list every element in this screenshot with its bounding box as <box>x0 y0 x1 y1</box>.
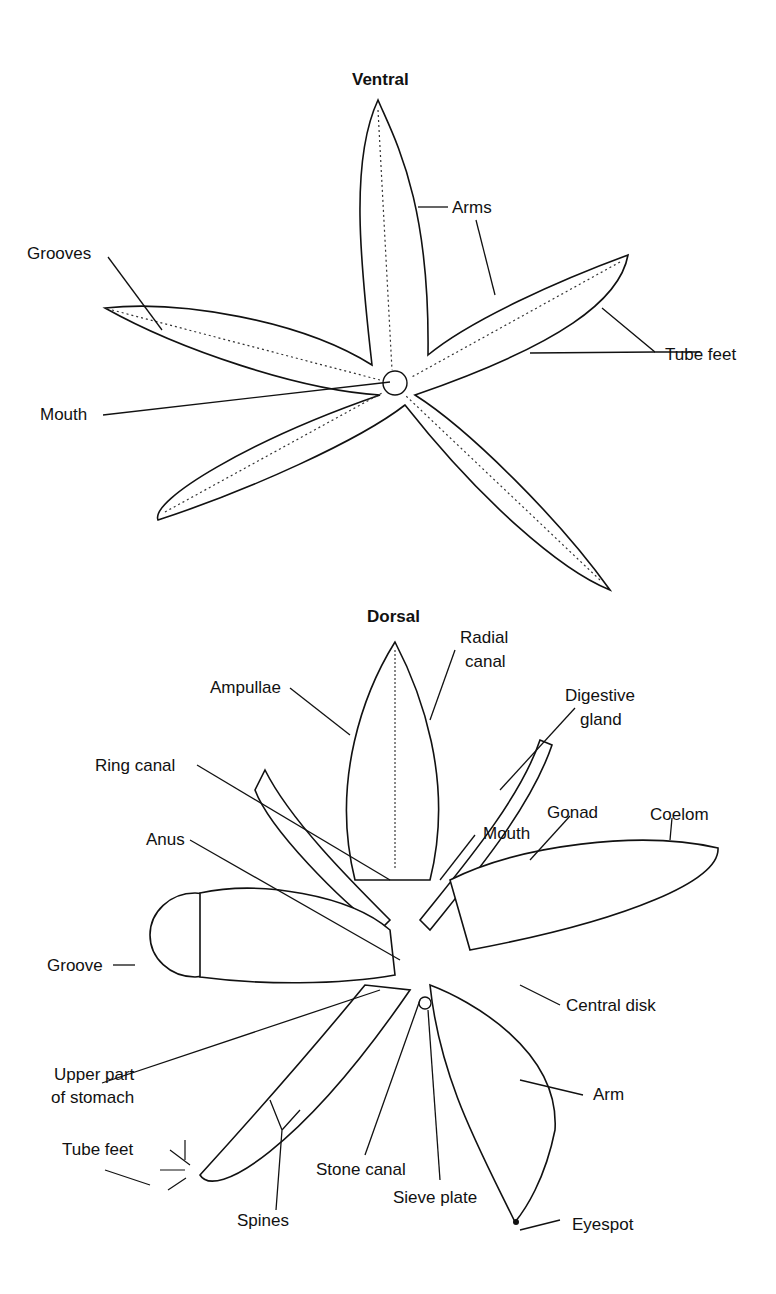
label-coelom: Coelom <box>650 805 709 824</box>
label-ampullae: Ampullae <box>210 678 281 697</box>
label-ring-canal: Ring canal <box>95 756 175 775</box>
label-central-disk: Central disk <box>566 996 656 1015</box>
label-eyespot: Eyespot <box>572 1215 633 1234</box>
label-groove: Groove <box>47 956 103 975</box>
label-tube-feet-dorsal: Tube feet <box>62 1140 133 1159</box>
label-spines: Spines <box>237 1211 289 1230</box>
label-mouth-ventral: Mouth <box>40 405 87 424</box>
label-radial-canal-2: canal <box>465 652 506 671</box>
label-mouth-dorsal: Mouth <box>483 824 530 843</box>
label-upper-stomach-1: Upper part <box>54 1065 134 1084</box>
ventral-starfish <box>105 100 628 590</box>
dorsal-starfish <box>150 642 718 1225</box>
label-stone-canal: Stone canal <box>316 1160 406 1179</box>
label-grooves: Grooves <box>27 244 91 263</box>
label-arms: Arms <box>452 198 492 217</box>
label-gonad: Gonad <box>547 803 598 822</box>
dorsal-title: Dorsal <box>367 607 420 627</box>
label-digestive-gland-1: Digestive <box>565 686 635 705</box>
label-arm: Arm <box>593 1085 624 1104</box>
ventral-title: Ventral <box>352 70 409 90</box>
label-radial-canal-1: Radial <box>460 628 508 647</box>
label-tube-feet-ventral: Tube feet <box>665 345 736 364</box>
label-digestive-gland-2: gland <box>580 710 622 729</box>
label-upper-stomach-2: of stomach <box>51 1088 134 1107</box>
label-anus: Anus <box>146 830 185 849</box>
label-sieve-plate: Sieve plate <box>393 1188 477 1207</box>
